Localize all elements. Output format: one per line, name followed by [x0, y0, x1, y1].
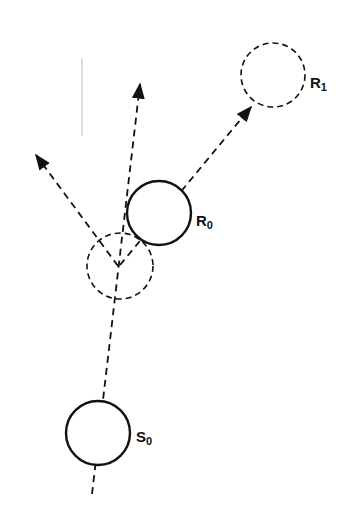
r1-circle	[241, 43, 305, 107]
r0-circle	[127, 181, 191, 245]
collision-position-circle	[87, 233, 153, 299]
s0-label: S0	[136, 428, 152, 447]
recoil-arrow-to-r1	[120, 107, 251, 265]
r1-label: R1	[310, 74, 327, 93]
r0-label: R0	[196, 212, 213, 231]
s0-circle	[66, 401, 130, 465]
diagram-canvas: R1 R0 S0	[0, 0, 364, 518]
reflected-arrow-left	[36, 155, 118, 266]
